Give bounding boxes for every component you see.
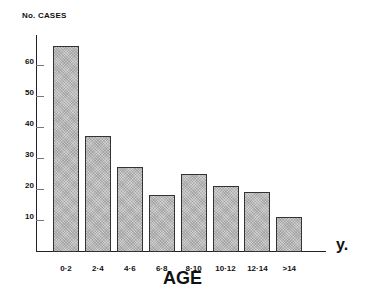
y-tick [36, 189, 44, 190]
bar [149, 195, 175, 252]
bar [53, 46, 79, 252]
y-tick-label: 40 [14, 119, 34, 128]
y-tick [36, 220, 44, 221]
y-tick-label: 20 [14, 181, 34, 190]
y-tick [36, 96, 44, 97]
y-axis-line [36, 35, 37, 251]
bar [117, 167, 143, 252]
y-tick [36, 127, 44, 128]
y-axis-title: No. CASES [22, 11, 66, 20]
y-tick-label: 10 [14, 212, 34, 221]
category-label: 10·12 [208, 264, 244, 273]
bar [244, 192, 270, 252]
y-tick-label: 60 [14, 57, 34, 66]
bar [181, 174, 207, 253]
bar [213, 186, 239, 252]
y-tick [36, 158, 44, 159]
y-tick [36, 65, 44, 66]
category-label: 12·14 [239, 264, 275, 273]
x-axis-title: AGE [163, 268, 202, 289]
y-tick-label: 30 [14, 150, 34, 159]
category-label: 0·2 [48, 264, 84, 273]
category-label: 4·6 [112, 264, 148, 273]
category-label: 2·4 [80, 264, 116, 273]
bar [276, 217, 302, 252]
y-tick-label: 50 [14, 88, 34, 97]
bar [85, 136, 111, 252]
category-label: >14 [271, 264, 307, 273]
x-axis-unit: y. [336, 236, 348, 254]
